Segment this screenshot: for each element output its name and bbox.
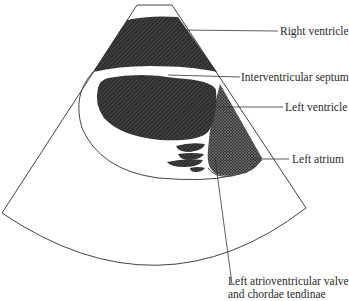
label-left-ventricle: Left ventricle xyxy=(285,101,347,114)
leader-right-ventricle xyxy=(178,30,278,31)
label-right-ventricle: Right ventricle xyxy=(280,25,349,38)
label-valve-line2: and chordae tendinae xyxy=(228,288,326,301)
label-interventricular-septum: Interventricular septum xyxy=(241,71,349,84)
label-valve-line1: Left atrioventricular valve xyxy=(228,275,349,288)
label-left-atrium: Left atrium xyxy=(292,153,344,166)
